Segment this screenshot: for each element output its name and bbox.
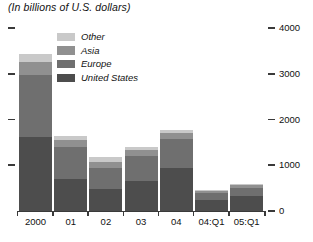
bar-segment: [160, 139, 193, 168]
bar-segment: [195, 191, 228, 193]
y-tick-right: [268, 164, 275, 166]
legend-swatch: [57, 60, 75, 69]
stacked-bar-chart: (In billions of U.S. dollars) 0100020003…: [0, 0, 313, 242]
bar-segment: [230, 196, 263, 211]
legend-swatch: [57, 74, 75, 83]
legend-label: Asia: [81, 45, 99, 56]
bar-segment: [195, 200, 228, 211]
y-tick-right: [268, 73, 275, 75]
x-axis-label: 05:Q1: [224, 216, 269, 227]
bar-segment: [19, 62, 52, 75]
y-tick-right: [268, 27, 275, 29]
y-axis-label: 4000: [279, 22, 300, 33]
bar-segment: [125, 147, 158, 150]
bar-segment: [125, 150, 158, 155]
bar-segment: [195, 190, 228, 191]
y-axis-label: 2000: [279, 114, 300, 125]
bar: [160, 130, 193, 211]
y-tick-right: [268, 210, 275, 212]
bar-segment: [160, 133, 193, 139]
bar: [230, 184, 263, 211]
bar-segment: [19, 75, 52, 137]
bar-segment: [89, 189, 122, 211]
legend-swatch: [57, 33, 75, 42]
bar-segment: [54, 136, 87, 140]
bar: [19, 54, 52, 211]
y-tick-left: [8, 119, 15, 121]
y-tick-left: [8, 164, 15, 166]
bar-segment: [125, 181, 158, 211]
bar-segment: [160, 130, 193, 133]
bar-segment: [89, 157, 122, 162]
legend-label: Other: [81, 31, 105, 42]
legend-label: Europe: [81, 58, 112, 69]
legend-swatch: [57, 46, 75, 55]
bar-segment: [230, 184, 263, 185]
bar-segment: [195, 193, 228, 200]
y-tick-left: [8, 73, 15, 75]
y-tick-right: [268, 119, 275, 121]
bar-segment: [125, 156, 158, 182]
y-axis-label: 0: [279, 205, 284, 216]
bar-segment: [19, 137, 52, 211]
bar: [195, 190, 228, 211]
legend-label: United States: [81, 72, 138, 83]
bar-segment: [160, 168, 193, 211]
bar-segment: [89, 162, 122, 169]
y-axis-label: 1000: [279, 159, 300, 170]
bar-segment: [54, 147, 87, 179]
bar: [89, 157, 122, 211]
chart-subtitle: (In billions of U.S. dollars): [8, 1, 131, 13]
bar-segment: [54, 179, 87, 211]
bar-segment: [230, 188, 263, 196]
bar: [125, 147, 158, 211]
y-axis-label: 3000: [279, 68, 300, 79]
bar-segment: [54, 140, 87, 147]
bar: [54, 136, 87, 211]
y-tick-left: [8, 27, 15, 29]
bar-segment: [230, 185, 263, 187]
bar-segment: [19, 54, 52, 62]
bar-segment: [89, 168, 122, 189]
